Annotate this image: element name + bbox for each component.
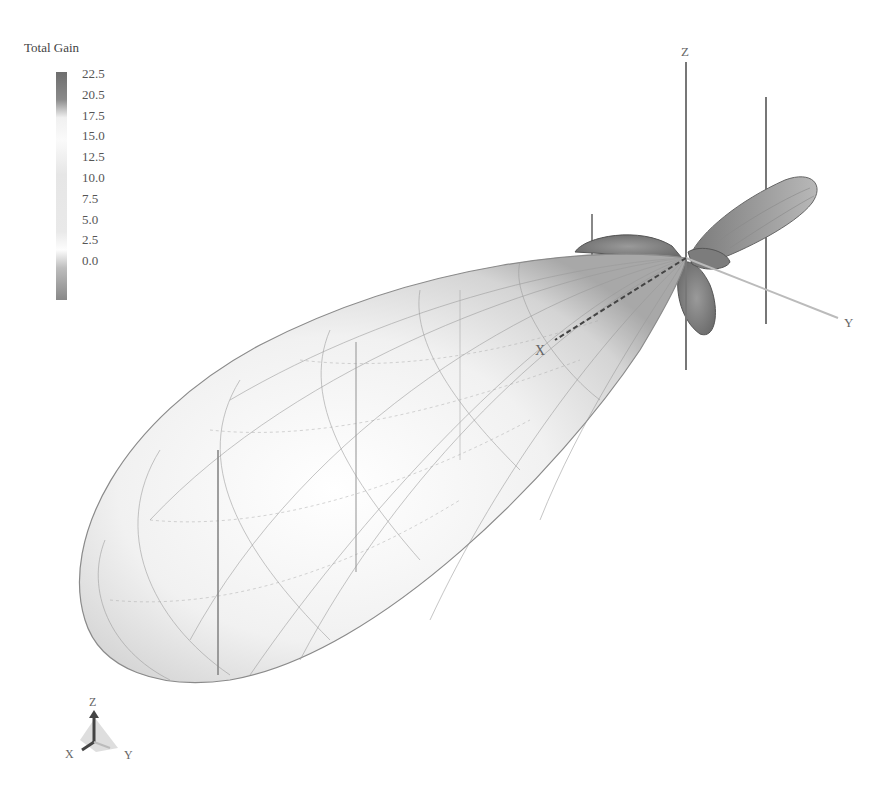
- z-axis-label: Z: [681, 44, 689, 59]
- lower-side-lobe: [678, 262, 716, 335]
- triad-x-label: X: [65, 747, 74, 761]
- x-axis-label: X: [535, 343, 545, 358]
- radiation-pattern-plot[interactable]: Z: [0, 0, 894, 808]
- orientation-triad[interactable]: Z X Y: [65, 695, 133, 762]
- main-lobe: [79, 254, 686, 682]
- triad-y-label: Y: [124, 748, 133, 762]
- triad-z-label: Z: [89, 695, 96, 709]
- y-axis-label: Y: [844, 315, 854, 330]
